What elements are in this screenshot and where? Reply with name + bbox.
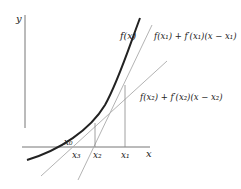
tangent-label-x2: f(x₂) + f′(x₂)(x − x₂) [139,92,223,102]
newton-method-diagram: y x f(x) f(x₁) + f′(x₁)(x − x₁) f(x₂) + … [0,0,241,189]
point-label-x2: x₂ [93,150,102,160]
point-label-x3: x₃ [72,150,81,160]
tangent-label-x1: f(x₁) + f′(x₁)(x − x₁) [153,31,237,41]
curve-label: f(x) [119,30,137,41]
x-axis-label: x [146,148,152,159]
point-label-x1: x₁ [121,150,130,160]
y-axis-label: y [15,13,22,24]
point-label-x0: x₀ [64,137,73,147]
tangent-line-x1 [78,25,152,180]
